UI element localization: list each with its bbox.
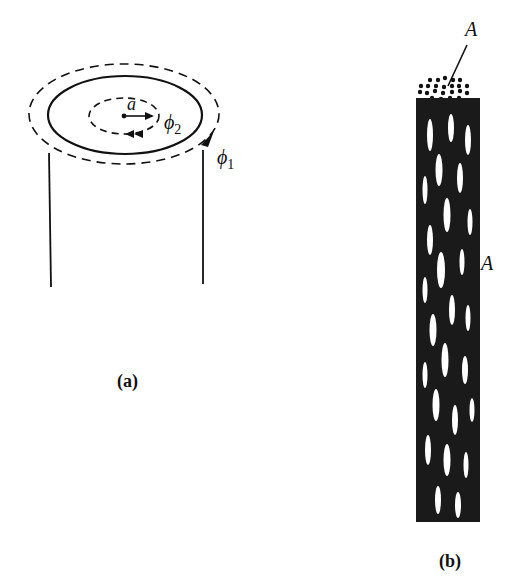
- caption-b: (b): [439, 551, 461, 572]
- radius-arrowhead-icon: [145, 112, 154, 120]
- outer-loop-arrowhead-icon: [201, 131, 214, 147]
- inner-loop-arrowhead-icon-2: [134, 130, 143, 138]
- phi1-label: ϕ1: [217, 146, 234, 173]
- caption-a: (a): [117, 371, 138, 392]
- diagram-canvas: [0, 0, 505, 578]
- inner-loop-arrowhead-icon: [125, 130, 134, 138]
- cylinder-figure: [29, 64, 219, 287]
- phi2-symbol: ϕ: [164, 111, 174, 133]
- phi2-label: ϕ2: [164, 111, 181, 138]
- cylinder-left-wall: [49, 153, 51, 287]
- braided-cable-figure: [416, 45, 480, 522]
- center-dot: [122, 114, 127, 119]
- radius-label: a: [127, 94, 136, 115]
- phi1-subscript: 1: [227, 157, 234, 172]
- phi1-symbol: ϕ: [217, 146, 227, 168]
- phi2-subscript: 2: [174, 122, 181, 137]
- strand-label-side: A: [481, 252, 493, 275]
- strand-label-top: A: [465, 18, 477, 41]
